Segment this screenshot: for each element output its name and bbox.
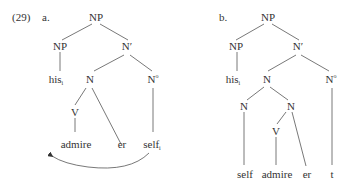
leaf-self: selfi [143,138,161,151]
leaf-self: self [237,168,253,180]
edge [272,24,299,40]
edge [100,24,128,40]
edge [62,24,92,40]
node-np: NP [229,40,243,52]
node-n: N [263,73,271,85]
node-np-root: NP [89,11,103,23]
edge [94,55,124,71]
node-nbar: N′ [293,40,303,52]
node-his: hisi [49,73,64,86]
tree-a: (29) a. NP NP N′ hisi N No V admire er s… [12,11,161,168]
edge [92,88,121,144]
edge [130,55,152,71]
leaf-admire: admire [262,168,293,180]
node-n-right: N [287,100,295,112]
node-np: NP [53,40,67,52]
node-n0: No [148,73,159,85]
example-number: (29) [12,11,31,24]
node-n0: No [326,73,337,85]
node-v: V [71,106,79,118]
node-n: N [86,73,94,85]
edge [277,112,286,124]
tree-b-label: b. [219,11,228,23]
node-n-left: N [240,100,248,112]
edge [301,55,329,71]
edge [75,88,86,105]
movement-arrow-icon [52,153,149,168]
node-his: hisi [226,73,241,86]
syntax-trees-figure: (29) a. NP NP N′ hisi N No V admire er s… [0,0,348,190]
leaf-er: er [118,138,127,150]
edge [292,112,306,166]
edge [268,55,296,71]
tree-b: b. NP NP N′ hisi N No N N V self admire … [219,11,336,180]
edge [247,87,264,100]
leaf-er: er [303,168,312,180]
tree-a-label: a. [42,11,50,23]
node-nbar: N′ [122,40,132,52]
leaf-trace: t [330,168,333,180]
node-v: V [272,125,280,137]
node-np-root: NP [261,11,275,23]
edge [236,24,264,40]
edge [270,87,288,100]
leaf-admire: admire [61,138,92,150]
